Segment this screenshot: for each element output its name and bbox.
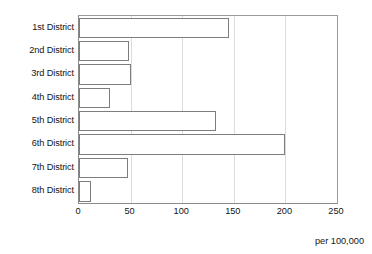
category-label: 5th District	[32, 116, 74, 125]
bar-band	[79, 86, 337, 109]
category-label: 3rd District	[31, 69, 74, 78]
category-label: 2nd District	[29, 46, 74, 55]
bar-band	[79, 63, 337, 86]
bar-6th-district	[79, 134, 285, 154]
bar-band	[79, 110, 337, 133]
x-tick-label: 0	[75, 207, 80, 216]
category-label: 1st District	[32, 23, 74, 32]
category-label: 4th District	[32, 93, 74, 102]
category-axis-labels: 1st District 2nd District 3rd District 4…	[0, 0, 74, 254]
category-label: 6th District	[32, 139, 74, 148]
x-tick-label: 150	[225, 207, 240, 216]
bar-band	[79, 133, 337, 156]
bar-8th-district	[79, 181, 91, 201]
category-label: 7th District	[32, 163, 74, 172]
bar-4th-district	[79, 88, 110, 108]
x-tick-label: 250	[328, 207, 343, 216]
bar-band	[79, 16, 337, 39]
bar-7th-district	[79, 158, 128, 178]
x-tick-label: 200	[277, 207, 292, 216]
bar-band	[79, 156, 337, 179]
bar-1st-district	[79, 18, 229, 38]
bar-2nd-district	[79, 41, 129, 61]
plot-area	[78, 15, 338, 204]
bar-band	[79, 39, 337, 62]
x-tick-label: 50	[124, 207, 134, 216]
bar-band	[79, 180, 337, 203]
unit-note: per 100,000	[315, 237, 364, 246]
bar-chart: 1st District 2nd District 3rd District 4…	[0, 0, 372, 254]
category-label: 8th District	[32, 186, 74, 195]
value-axis-ticks: 0 50 100 150 200 250	[78, 207, 336, 221]
bar-3rd-district	[79, 64, 131, 84]
x-tick-label: 100	[174, 207, 189, 216]
bar-5th-district	[79, 111, 216, 131]
